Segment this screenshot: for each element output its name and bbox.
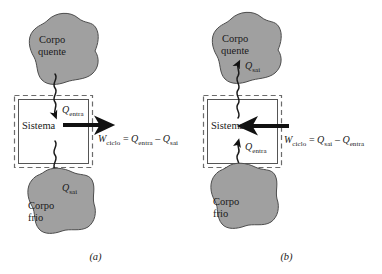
work-equation-term2-subscript: sai (170, 139, 178, 147)
hot-body-label-line2: quente (205, 45, 265, 57)
work-equation: Wciclo = Qentra – Qsai (98, 133, 178, 148)
hot-body-label-line2: quente (22, 46, 82, 58)
hot-body-label: Corpo quente (205, 33, 265, 57)
cold-body-label-line2: frio (213, 208, 273, 220)
work-equation-term2-symbol: Q (163, 133, 170, 144)
heat-out-label: Qsai (245, 60, 260, 75)
hot-body-label-line1: Corpo (205, 33, 265, 45)
diagram-panel-b: Corpo quente Qsai Sistema Qentra Corpo f… (191, 0, 382, 274)
heat-out-label: Qsai (62, 182, 77, 197)
figure-canvas: Corpo quente Sistema Qentra Qsai Corpo f… (0, 0, 382, 274)
heat-in-subscript: entra (69, 110, 84, 118)
heat-in-label: Qentra (245, 141, 267, 156)
work-equation: Wciclo = Qsai – Qentra (284, 134, 364, 149)
panel-b-caption: (b) (191, 251, 382, 263)
cold-body-label-line2: frio (28, 212, 88, 224)
work-equation-operator: – (155, 133, 160, 144)
cold-body-label: Corpo frio (28, 200, 88, 224)
cold-body-label-line1: Corpo (28, 200, 88, 212)
work-equation-lhs-subscript: ciclo (106, 139, 120, 147)
work-equation-equals: = (123, 133, 129, 144)
hot-body-label-line1: Corpo (22, 34, 82, 46)
system-label: Sistema (211, 120, 244, 132)
work-equation-equals: = (309, 134, 315, 145)
heat-in-subscript: entra (252, 147, 267, 155)
heat-out-subscript: sai (252, 66, 260, 74)
heat-out-subscript: sai (69, 188, 77, 196)
system-label: Sistema (22, 120, 55, 132)
work-equation-lhs-subscript: ciclo (292, 140, 306, 148)
cold-body-label-line1: Corpo (213, 196, 273, 208)
cold-body-label: Corpo frio (213, 196, 273, 220)
work-equation-term1-subscript: entra (138, 139, 153, 147)
work-equation-operator: – (335, 134, 340, 145)
work-equation-term1-subscript: sai (324, 140, 332, 148)
diagram-panel-a: Corpo quente Sistema Qentra Qsai Corpo f… (0, 0, 191, 274)
work-equation-term2-symbol: Q (342, 134, 349, 145)
panel-a-caption: (a) (0, 251, 191, 263)
hot-body-label: Corpo quente (22, 34, 82, 58)
heat-in-label: Qentra (62, 104, 84, 119)
work-equation-term2-subscript: entra (350, 140, 365, 148)
